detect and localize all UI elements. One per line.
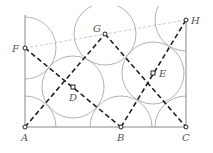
point-D — [71, 85, 75, 89]
arc-F — [0, 17, 56, 79]
point-H — [184, 18, 188, 22]
label-B: B — [116, 132, 124, 143]
arc-H — [155, 0, 213, 51]
segment-GC — [105, 34, 186, 127]
label-H: H — [190, 15, 200, 26]
geometry-diagram: A B C D E F G H — [0, 0, 213, 153]
construction-circles — [0, 0, 213, 153]
point-F — [23, 46, 27, 50]
point-G — [103, 32, 107, 36]
point-B — [119, 125, 123, 129]
label-G: G — [93, 23, 101, 34]
point-A — [23, 125, 27, 129]
label-D: D — [68, 92, 77, 103]
point-E — [151, 71, 155, 75]
label-F: F — [11, 43, 20, 54]
label-A: A — [20, 132, 28, 143]
label-C: C — [182, 132, 190, 143]
label-E: E — [158, 68, 167, 79]
point-C — [184, 125, 188, 129]
